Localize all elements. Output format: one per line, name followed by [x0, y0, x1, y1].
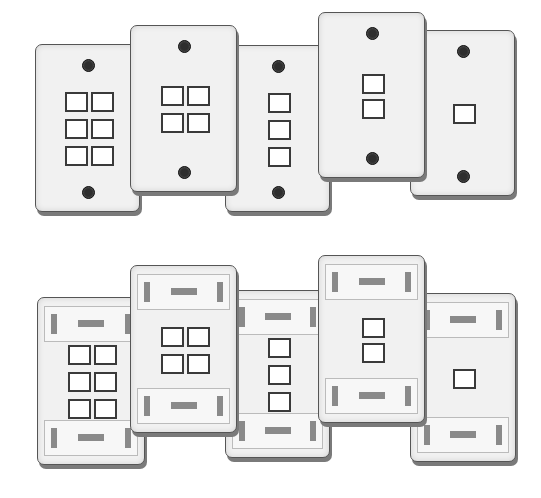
screw-icon: [272, 60, 285, 73]
label-clip: [424, 425, 430, 445]
keystone-port: [362, 99, 385, 119]
keystone-port: [161, 327, 184, 347]
label-clip: [496, 425, 502, 445]
label-tab: [78, 434, 104, 441]
keystone-port: [68, 372, 91, 392]
keystone-port: [94, 399, 117, 419]
label-window-bottom: [137, 388, 230, 424]
label-clip: [51, 428, 57, 448]
label-clip: [217, 282, 223, 302]
label-window-bottom: [417, 417, 509, 453]
wall-plate-1-port: [410, 30, 515, 196]
label-window-bottom: [232, 413, 323, 449]
screw-icon: [366, 27, 379, 40]
screw-icon: [457, 45, 470, 58]
label-tab: [359, 392, 385, 399]
label-tab: [265, 427, 291, 434]
keystone-port: [187, 327, 210, 347]
keystone-port: [362, 318, 385, 338]
label-clip: [144, 282, 150, 302]
label-window-top: [325, 264, 418, 300]
label-clip: [125, 428, 131, 448]
keystone-port: [161, 354, 184, 374]
label-clip: [405, 386, 411, 406]
label-window-bottom: [325, 378, 418, 414]
keystone-port: [187, 113, 210, 133]
label-tab: [171, 288, 197, 295]
label-clip: [144, 396, 150, 416]
keystone-port: [362, 343, 385, 363]
screw-icon: [457, 170, 470, 183]
label-clip: [310, 307, 316, 327]
label-clip: [310, 421, 316, 441]
label-clip: [239, 421, 245, 441]
label-clip: [496, 310, 502, 330]
keystone-port: [187, 86, 210, 106]
label-window-top: [417, 302, 509, 338]
keystone-port: [187, 354, 210, 374]
screw-icon: [178, 166, 191, 179]
keystone-port: [453, 369, 476, 389]
keystone-port: [94, 345, 117, 365]
wall-plate-3-port: [225, 45, 330, 212]
wall-plate-2-port: [318, 255, 425, 423]
label-clip: [332, 272, 338, 292]
screw-icon: [178, 40, 191, 53]
label-clip: [239, 307, 245, 327]
wall-plate-3-port: [225, 290, 330, 458]
keystone-port: [161, 113, 184, 133]
label-tab: [265, 313, 291, 320]
keystone-port: [268, 392, 291, 412]
screw-icon: [366, 152, 379, 165]
label-window-bottom: [44, 420, 138, 456]
label-clip: [405, 272, 411, 292]
keystone-port: [268, 338, 291, 358]
keystone-port: [161, 86, 184, 106]
wall-plate-6-port: [37, 297, 145, 465]
keystone-port: [65, 146, 88, 166]
keystone-port: [362, 74, 385, 94]
screw-icon: [82, 186, 95, 199]
label-window-top: [232, 299, 323, 335]
label-clip: [332, 386, 338, 406]
wall-plate-4-port: [130, 265, 237, 433]
keystone-port: [268, 120, 291, 140]
wall-plate-2-port: [318, 12, 425, 178]
keystone-port: [268, 93, 291, 113]
label-tab: [450, 316, 476, 323]
keystone-port: [268, 147, 291, 167]
label-clip: [217, 396, 223, 416]
screw-icon: [82, 59, 95, 72]
keystone-port: [91, 92, 114, 112]
label-clip: [51, 314, 57, 334]
label-tab: [171, 402, 197, 409]
wall-plate-1-port: [410, 293, 516, 462]
label-tab: [78, 320, 104, 327]
screw-icon: [272, 186, 285, 199]
wall-plate-6-port: [35, 44, 140, 212]
keystone-port: [94, 372, 117, 392]
keystone-port: [268, 365, 291, 385]
label-tab: [359, 278, 385, 285]
label-window-top: [44, 306, 138, 342]
keystone-port: [65, 119, 88, 139]
keystone-port: [68, 399, 91, 419]
keystone-port: [65, 92, 88, 112]
wall-plate-4-port: [130, 25, 237, 192]
keystone-port: [68, 345, 91, 365]
keystone-port: [91, 119, 114, 139]
keystone-port: [91, 146, 114, 166]
label-tab: [450, 431, 476, 438]
label-window-top: [137, 274, 230, 310]
keystone-port: [453, 104, 476, 124]
